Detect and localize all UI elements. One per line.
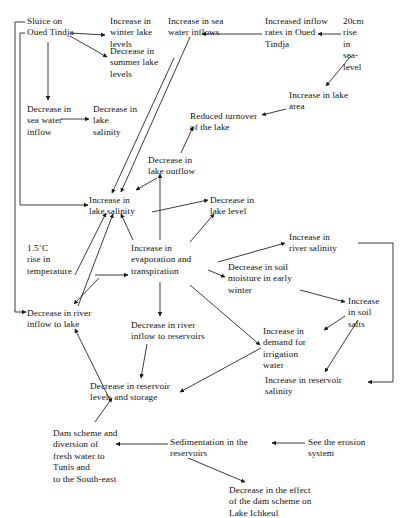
node-dam_scheme: Dam scheme and diversion of fresh water … xyxy=(53,428,137,485)
node-dec_river_res: Decrease in river inflow to reservoirs xyxy=(131,320,227,343)
node-dec_sea_inflow: Decrease in sea water inflow xyxy=(27,104,89,138)
node-river_salinity: Increase in river salinity xyxy=(289,232,355,255)
node-dec_river_lake: Decrease in river inflow to lake xyxy=(27,308,117,331)
node-erosion: See the erosion system xyxy=(308,437,386,460)
node-reservoir_levels: Decrease in reservoir levels and storage xyxy=(90,381,202,404)
node-lake_area: Increase in lake area xyxy=(289,90,369,113)
edge-evaporation-to-river_salinity xyxy=(218,243,285,262)
node-inc_lake_salinity: Increase in lake salinity xyxy=(89,195,151,218)
edge-sedimentation-to-dam_effect xyxy=(188,458,245,482)
node-sea_water_inflows: Increase in sea water inflows xyxy=(168,16,248,39)
edge-soil_salts-to-irrigation xyxy=(324,316,345,330)
systems-diagram: Sluice on Oued TindjaIncrease in winter … xyxy=(0,0,401,518)
node-temperature: 1.5˚C rise in temperature xyxy=(27,243,93,277)
edge-evaporation-to-lake_level xyxy=(190,214,214,242)
edge-loop_left_inner-to-sluice xyxy=(20,33,25,205)
node-reduced_turnover: Reduced turnover of the lake xyxy=(190,111,280,134)
edge-evaporation-to-inc_lake_salinity xyxy=(121,214,133,240)
node-dec_lake_salinity: Decrease in lake salinity xyxy=(93,104,151,138)
node-lake_level: Decrease in lake level xyxy=(210,195,272,218)
edge-loop_left_outer-to-sluice xyxy=(15,22,25,312)
edge-temperature-to-dec_river_lake xyxy=(74,278,99,304)
node-irrigation: Increase in demand for irrigation water xyxy=(263,326,325,372)
node-soil_salts: Increase in soil salts xyxy=(348,296,394,330)
node-sedimentation: Sedimentation in the reservoirs xyxy=(170,437,270,460)
edge-dec_river_res-to-reservoir_levels xyxy=(141,344,147,378)
node-sluice: Sluice on Oued Tindja xyxy=(27,16,105,39)
node-lake_outflow: Decrease in lake outflow xyxy=(148,155,210,178)
node-summer_lake: Decrease in summer lake levels xyxy=(110,46,172,80)
edge-inc_lake_salinity-to-lake_level xyxy=(152,200,208,212)
edge-sluice-to-summer_lake xyxy=(70,36,107,57)
node-soil_moisture: Decrease in soil moisture in early winte… xyxy=(228,262,316,296)
node-evaporation: Increase in evaporation and transpiratio… xyxy=(131,243,215,277)
node-reservoir_salinity: Increase in reservoir salinity xyxy=(265,375,369,398)
node-sea_level: 20cm rise in sea- level xyxy=(343,16,383,73)
node-inflow_rates: Increased inflow rates in Oued Tindja xyxy=(265,16,347,50)
node-dam_effect: Decrease in the effect of the dam scheme… xyxy=(229,485,345,518)
edge-lake_outflow-to-inc_lake_salinity xyxy=(136,178,157,190)
